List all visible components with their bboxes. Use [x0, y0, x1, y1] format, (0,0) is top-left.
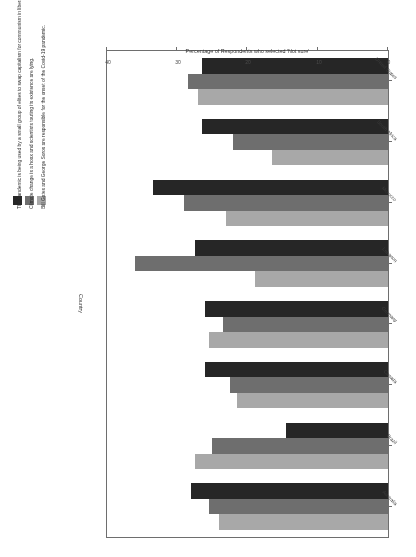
- bar-brazil-series-2: [212, 438, 388, 453]
- category-tick-mark: [388, 445, 392, 446]
- bar-lebanon-series-2: [135, 256, 388, 271]
- bar-germany-series-1: [209, 332, 388, 347]
- bar-united-states-series-2: [188, 74, 388, 89]
- category-tick-mark: [388, 80, 392, 81]
- bar-chart-figure: AustraliaBrazilCanadaGermanyLebanonMoroc…: [0, 0, 416, 557]
- category-tick-mark: [388, 202, 392, 203]
- bar-germany-series-2: [223, 317, 388, 332]
- plot-area: AustraliaBrazilCanadaGermanyLebanonMoroc…: [106, 50, 389, 538]
- bar-lebanon-series-3: [195, 240, 388, 255]
- bar-morocco-series-1: [226, 211, 388, 226]
- category-tick-mark: [388, 141, 392, 142]
- value-tick-label: 20: [239, 59, 259, 65]
- bar-germany-series-3: [205, 301, 388, 316]
- legend-label-2: Climate change is a hoax and scientists …: [30, 58, 35, 209]
- y-axis-title: Country: [78, 294, 84, 313]
- value-tick-label: 0: [379, 59, 399, 65]
- bar-south-africa-series-2: [233, 134, 388, 149]
- category-tick-mark: [388, 263, 392, 264]
- bar-australia-series-3: [191, 483, 388, 498]
- value-tick-label: 30: [168, 59, 188, 65]
- bar-brazil-series-1: [195, 454, 388, 469]
- bar-united-states-series-3: [202, 58, 388, 73]
- bar-south-africa-series-1: [272, 150, 388, 165]
- figure-rotation-wrapper: AustraliaBrazilCanadaGermanyLebanonMoroc…: [0, 0, 416, 557]
- bar-canada-series-3: [205, 362, 388, 377]
- value-tick-label: 40: [98, 59, 118, 65]
- bar-canada-series-1: [237, 393, 388, 408]
- value-tick-label: 10: [309, 59, 329, 65]
- bar-morocco-series-3: [153, 180, 388, 195]
- legend-label-3: The pandemic is being used by a small gr…: [18, 0, 23, 209]
- x-axis-title: Percentage of Respondents who selected '…: [106, 48, 389, 54]
- bar-brazil-series-3: [286, 423, 388, 438]
- bar-australia-series-2: [209, 499, 388, 514]
- legend-label-1: Bill Gates and George Soros are responsi…: [42, 25, 47, 209]
- category-tick-mark: [388, 323, 392, 324]
- bar-south-africa-series-3: [202, 119, 388, 134]
- bar-canada-series-2: [230, 377, 388, 392]
- category-tick-mark: [388, 384, 392, 385]
- category-tick-mark: [388, 506, 392, 507]
- bar-united-states-series-1: [198, 89, 388, 104]
- bar-lebanon-series-1: [255, 271, 388, 286]
- bar-morocco-series-2: [184, 195, 388, 210]
- bar-australia-series-1: [219, 514, 388, 529]
